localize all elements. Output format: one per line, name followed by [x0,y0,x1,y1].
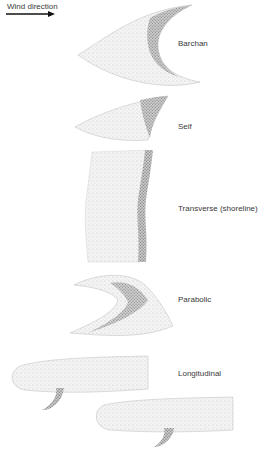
seif-label: Seif [178,122,192,131]
longitudinal-dune-shape-2 [96,397,233,447]
wind-direction-label: Wind direction [7,2,58,11]
dune-diagram [0,0,265,449]
barchan-label: Barchan [178,39,208,48]
transverse-dune-shape [85,150,153,262]
seif-dune-shape [75,96,168,140]
parabolic-label: Parabolic [178,295,211,304]
longitudinal-label: Longitudinal [178,369,221,378]
transverse-label: Transverse (shoreline) [178,204,258,213]
parabolic-dune-shape [70,275,173,335]
wind-arrow-icon [6,11,55,17]
